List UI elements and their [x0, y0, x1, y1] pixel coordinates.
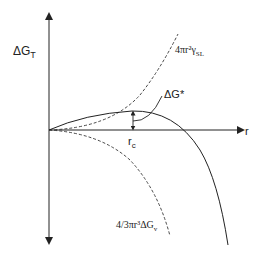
- volume-curve-label: 4/3πr³ΔGv: [116, 219, 158, 233]
- delta-g-star-leader: [133, 96, 162, 121]
- delta-g-star-label: ΔG*: [164, 88, 185, 100]
- y-axis-label: ΔGT: [13, 44, 36, 60]
- x-axis-label: r: [245, 125, 249, 137]
- surface-energy-curve: [49, 34, 178, 130]
- surface-curve-label: 4πr²γSL: [175, 44, 204, 58]
- nucleation-diagram: ΔGT r 4πr²γSL 4/3πr³ΔGv ΔG* rc: [0, 0, 255, 253]
- critical-radius-label: rc: [128, 135, 136, 150]
